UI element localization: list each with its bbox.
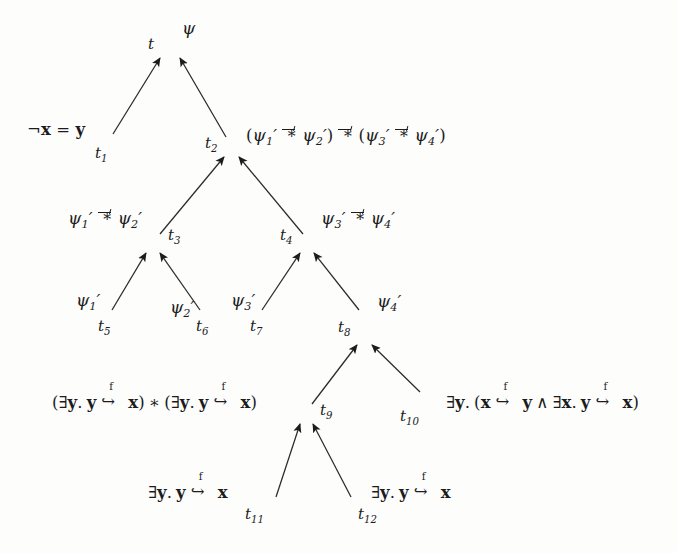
proof-tree-diagram: ψ t ¬x = y t1 (ψ1′∗ψ2′)∗(ψ3′∗ψ4′) t2 ψ1′… bbox=[0, 0, 677, 553]
formula-t3: ψ1′∗ψ2′ bbox=[68, 207, 142, 230]
edge-layer bbox=[0, 0, 677, 553]
points-to-arrow-icon: f↪ bbox=[212, 391, 236, 408]
formula-t1: ¬x = y bbox=[27, 122, 85, 139]
edge-t4-t2 bbox=[239, 157, 303, 234]
transition-label-t11: t11 bbox=[245, 507, 264, 525]
transition-label-t8: t8 bbox=[338, 320, 351, 338]
edge-t9-t8 bbox=[312, 345, 357, 404]
formula-t10: ∃y.(xf↪y∧∃x.yf↪x) bbox=[446, 391, 639, 411]
transition-label-t3: t3 bbox=[168, 228, 181, 246]
points-to-arrow-icon: f↪ bbox=[190, 481, 214, 498]
transition-label-t2: t2 bbox=[205, 136, 218, 154]
points-to-arrow-icon: f↪ bbox=[100, 391, 124, 408]
formula-root-psi: ψ bbox=[182, 20, 195, 37]
transition-label-t7: t7 bbox=[250, 319, 263, 337]
edge-t3-t2 bbox=[160, 157, 224, 234]
transition-label-t10: t10 bbox=[400, 409, 419, 427]
magic-wand-icon: ∗ bbox=[281, 124, 298, 141]
magic-wand-icon: ∗ bbox=[97, 207, 114, 224]
formula-t7: ψ3′ bbox=[231, 292, 255, 313]
transition-label-t5: t5 bbox=[98, 319, 111, 337]
points-to-arrow-icon: f↪ bbox=[495, 391, 519, 408]
magic-wand-icon: ∗ bbox=[337, 124, 354, 141]
formula-t12: ∃y.yf↪x bbox=[371, 481, 451, 501]
edge-t2-t bbox=[180, 58, 226, 137]
transition-label-t9: t9 bbox=[320, 403, 333, 421]
edge-t1-t bbox=[113, 58, 160, 134]
transition-label-t4: t4 bbox=[280, 228, 293, 246]
edge-t12-t9 bbox=[313, 424, 351, 497]
edge-t8-t4 bbox=[314, 253, 359, 310]
edge-t5-t3 bbox=[112, 253, 146, 310]
formula-t9: (∃y.yf↪x)∗(∃y.yf↪x) bbox=[52, 391, 257, 411]
formula-t11: ∃y.yf↪x bbox=[148, 481, 228, 501]
formula-t8: ψ4′ bbox=[377, 293, 401, 314]
transition-label-t12: t12 bbox=[358, 507, 377, 525]
formula-t5: ψ1′ bbox=[76, 292, 100, 313]
edge-t11-t9 bbox=[276, 424, 300, 497]
formula-t4: ψ3′∗ψ4′ bbox=[321, 207, 395, 230]
magic-wand-icon: ∗ bbox=[394, 124, 411, 141]
magic-wand-icon: ∗ bbox=[350, 207, 367, 224]
formula-t6: ψ2′ bbox=[170, 299, 194, 320]
formula-t2: (ψ1′∗ψ2′)∗(ψ3′∗ψ4′) bbox=[246, 124, 446, 147]
points-to-arrow-icon: f↪ bbox=[595, 391, 619, 408]
transition-label-t6: t6 bbox=[196, 319, 209, 337]
edge-t10-t8 bbox=[372, 345, 420, 392]
transition-label-t: t bbox=[148, 37, 154, 52]
transition-label-t1: t1 bbox=[95, 146, 108, 164]
edge-t7-t4 bbox=[262, 253, 300, 310]
points-to-arrow-icon: f↪ bbox=[413, 481, 437, 498]
